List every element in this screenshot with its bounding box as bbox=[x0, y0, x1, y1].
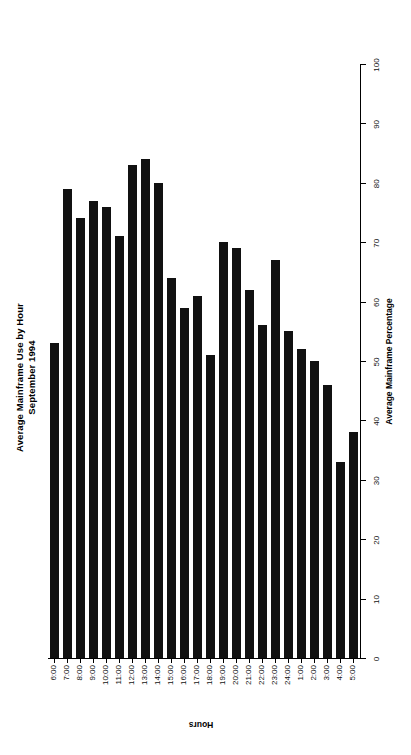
bar-row: 13:00 bbox=[141, 64, 150, 658]
category-tick-label: 1:00 bbox=[297, 665, 305, 681]
category-tick-label: 16:00 bbox=[180, 665, 188, 685]
bar bbox=[141, 159, 150, 658]
category-tick-mark bbox=[67, 658, 68, 663]
bar bbox=[206, 355, 215, 658]
category-axis-line bbox=[48, 658, 360, 659]
category-tick-mark bbox=[262, 658, 263, 663]
category-tick-label: 5:00 bbox=[349, 665, 357, 681]
category-tick-mark bbox=[80, 658, 81, 663]
category-tick-mark bbox=[340, 658, 341, 663]
bar-row: 3:00 bbox=[323, 64, 332, 658]
value-tick-label: 70 bbox=[372, 239, 381, 248]
bar-row: 24:00 bbox=[284, 64, 293, 658]
bar bbox=[154, 183, 163, 658]
category-tick-mark bbox=[184, 658, 185, 663]
bar bbox=[245, 290, 254, 658]
bar-row: 21:00 bbox=[245, 64, 254, 658]
bar bbox=[102, 207, 111, 658]
bar bbox=[310, 361, 319, 658]
value-axis-title: Average Mainframe Percentage bbox=[384, 64, 394, 659]
bar-row: 17:00 bbox=[193, 64, 202, 658]
category-tick-mark bbox=[327, 658, 328, 663]
chart-figure: Average Mainframe Use by Hour September … bbox=[0, 0, 411, 755]
bar bbox=[271, 260, 280, 658]
bar-row: 4:00 bbox=[336, 64, 345, 658]
value-tick-mark bbox=[360, 361, 366, 362]
category-tick-mark bbox=[236, 658, 237, 663]
value-tick-mark bbox=[360, 599, 366, 600]
category-tick-mark bbox=[93, 658, 94, 663]
category-tick-label: 18:00 bbox=[206, 665, 214, 685]
category-tick-label: 19:00 bbox=[219, 665, 227, 685]
value-tick-label: 10 bbox=[372, 595, 381, 604]
value-tick-label: 60 bbox=[372, 298, 381, 307]
category-tick-mark bbox=[301, 658, 302, 663]
value-tick-mark bbox=[360, 302, 366, 303]
category-tick-label: 4:00 bbox=[336, 665, 344, 681]
bar-row: 15:00 bbox=[167, 64, 176, 658]
value-tick-mark bbox=[360, 242, 366, 243]
value-tick-label: 80 bbox=[372, 179, 381, 188]
category-tick-label: 22:00 bbox=[258, 665, 266, 685]
category-tick-label: 12:00 bbox=[128, 665, 136, 685]
bar bbox=[63, 189, 72, 658]
category-tick-label: 6:00 bbox=[50, 665, 58, 681]
chart-title: Average Mainframe Use by Hour bbox=[14, 0, 26, 755]
value-tick-label: 50 bbox=[372, 358, 381, 367]
bar bbox=[258, 325, 267, 658]
bar bbox=[89, 201, 98, 658]
bar-row: 1:00 bbox=[297, 64, 306, 658]
category-tick-mark bbox=[223, 658, 224, 663]
bar bbox=[284, 331, 293, 658]
category-tick-mark bbox=[106, 658, 107, 663]
bar-row: 6:00 bbox=[50, 64, 59, 658]
bar-row: 9:00 bbox=[89, 64, 98, 658]
value-tick-label: 20 bbox=[372, 536, 381, 545]
bar-series: 6:007:008:009:0010:0011:0012:0013:0014:0… bbox=[48, 64, 360, 658]
plot-area: 6:007:008:009:0010:0011:0012:0013:0014:0… bbox=[48, 64, 360, 659]
bar bbox=[349, 432, 358, 658]
value-tick-label: 40 bbox=[372, 417, 381, 426]
category-tick-mark bbox=[54, 658, 55, 663]
bar bbox=[115, 236, 124, 658]
category-tick-label: 21:00 bbox=[245, 665, 253, 685]
category-tick-mark bbox=[353, 658, 354, 663]
bar bbox=[219, 242, 228, 658]
category-tick-mark bbox=[119, 658, 120, 663]
value-tick-label: 0 bbox=[372, 657, 381, 661]
bar-row: 7:00 bbox=[63, 64, 72, 658]
value-tick-label: 100 bbox=[372, 58, 381, 71]
category-tick-label: 23:00 bbox=[271, 665, 279, 685]
category-tick-label: 14:00 bbox=[154, 665, 162, 685]
bar-row: 20:00 bbox=[232, 64, 241, 658]
category-tick-mark bbox=[197, 658, 198, 663]
bar bbox=[336, 462, 345, 658]
category-tick-mark bbox=[158, 658, 159, 663]
category-tick-label: 10:00 bbox=[102, 665, 110, 685]
bar bbox=[167, 278, 176, 658]
category-tick-mark bbox=[132, 658, 133, 663]
rotated-figure-wrapper: Average Mainframe Use by Hour September … bbox=[0, 0, 411, 755]
category-tick-label: 17:00 bbox=[193, 665, 201, 685]
value-tick-mark bbox=[360, 658, 366, 659]
value-tick-mark bbox=[360, 539, 366, 540]
value-tick-mark bbox=[360, 123, 366, 124]
bar bbox=[323, 385, 332, 658]
bar-row: 16:00 bbox=[180, 64, 189, 658]
bar-row: 8:00 bbox=[76, 64, 85, 658]
bar bbox=[297, 349, 306, 658]
value-tick-mark bbox=[360, 64, 366, 65]
bar bbox=[76, 218, 85, 658]
bar bbox=[50, 343, 59, 658]
category-tick-mark bbox=[210, 658, 211, 663]
chart-page: Average Mainframe Use by Hour September … bbox=[0, 0, 411, 755]
category-tick-label: 2:00 bbox=[310, 665, 318, 681]
category-tick-label: 7:00 bbox=[63, 665, 71, 681]
category-tick-label: 15:00 bbox=[167, 665, 175, 685]
category-tick-label: 24:00 bbox=[284, 665, 292, 685]
bar-row: 2:00 bbox=[310, 64, 319, 658]
category-tick-mark bbox=[314, 658, 315, 663]
category-tick-label: 3:00 bbox=[323, 665, 331, 681]
value-tick-mark bbox=[360, 420, 366, 421]
category-tick-label: 13:00 bbox=[141, 665, 149, 685]
